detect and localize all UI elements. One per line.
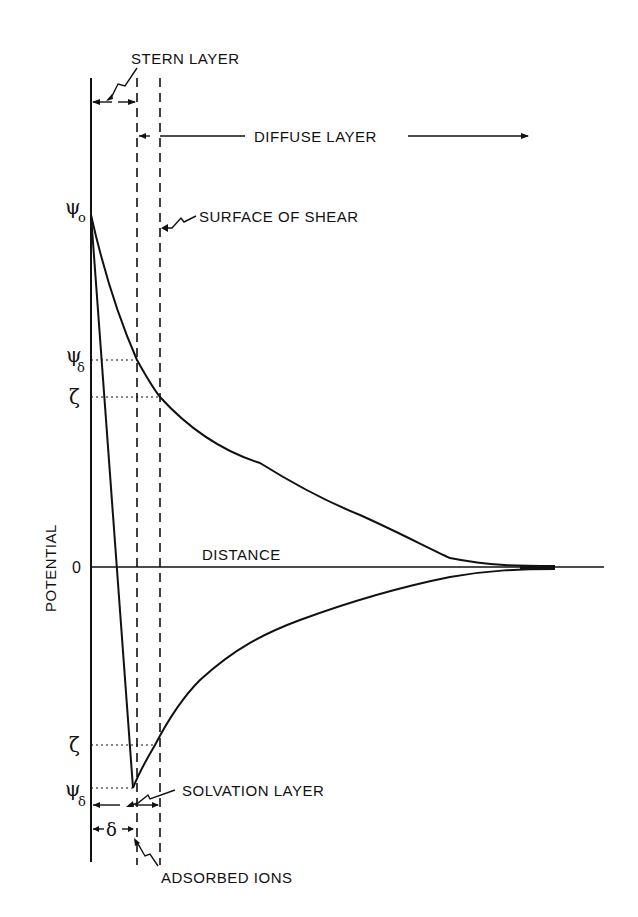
surface-of-shear-label: SURFACE OF SHEAR <box>199 208 359 225</box>
solvation-leader-line <box>128 790 175 806</box>
zeta-top-symbol: ζ <box>69 385 80 409</box>
distance-label: DISTANCE <box>202 546 281 563</box>
diffuse-layer-label: DIFFUSE LAYER <box>254 128 377 145</box>
double-layer-diagram: STERN LAYER DIFFUSE LAYER SURFACE OF SHE… <box>0 0 638 917</box>
psi-zero-subscript: o <box>78 210 86 225</box>
psi-delta-bottom-subscript: δ <box>78 794 86 809</box>
stern-leader-line <box>108 68 137 100</box>
adsorbed-ions-label: ADSORBED IONS <box>161 869 293 886</box>
psi-delta-top-subscript: δ <box>77 360 85 375</box>
potential-axis-label: POTENTIAL <box>42 524 59 612</box>
stern-layer-potential-line <box>91 215 133 788</box>
solvation-layer-label: SOLVATION LAYER <box>182 782 324 799</box>
delta-symbol: δ <box>106 819 117 840</box>
stern-layer-label: STERN LAYER <box>131 50 240 67</box>
zeta-bottom-symbol: ζ <box>69 733 80 757</box>
zero-label: 0 <box>72 559 81 576</box>
lower-potential-curve <box>133 569 555 788</box>
